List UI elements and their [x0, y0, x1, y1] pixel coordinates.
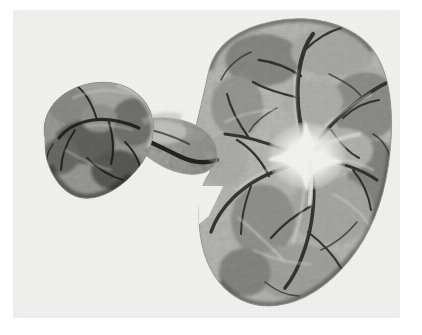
photograph-print-area: [13, 10, 400, 318]
specimen-photograph-image: [13, 10, 400, 318]
large-right-lobe: [193, 10, 400, 318]
small-left-lobe: [33, 70, 168, 215]
page-root: [0, 0, 422, 335]
caption: [13, 320, 400, 332]
